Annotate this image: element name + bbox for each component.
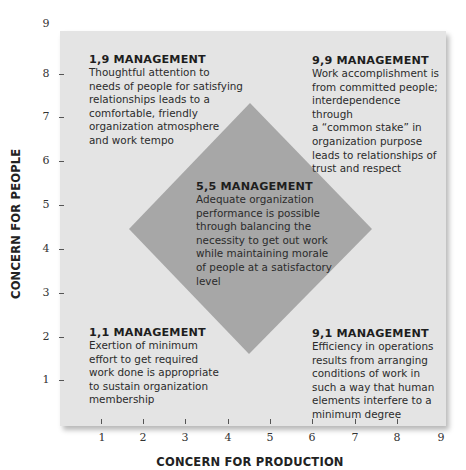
style-description-line: a “common stake” in [312,121,440,135]
style-description-line: results from arranging [312,354,442,368]
style-description-line: organization purpose [312,135,440,149]
style-1-9-country-club: 1,9 MANAGEMENT Thoughtful attention to n… [89,53,264,148]
style-description-line: minimum degree [312,408,442,422]
style-heading: 1,9 MANAGEMENT [89,53,264,66]
x-tick-mark [101,419,102,424]
x-tick-mark [143,419,144,424]
y-tick-mark [59,337,64,338]
y-axis-title: CONCERN FOR PEOPLE [9,159,23,299]
y-tick-mark [59,205,64,206]
style-description-line: effort to get required [89,353,219,367]
x-tick-label-5: 5 [263,432,277,444]
style-description-line: organization atmosphere [89,120,264,134]
x-tick-label-6: 6 [305,432,319,444]
style-description-line: Adequate organization [196,193,336,207]
x-tick-label-3: 3 [178,432,192,444]
x-tick-label-9: 9 [434,432,448,444]
style-description-line: comfortable, friendly [89,107,264,121]
style-description-line: of people at a satisfactory [196,261,336,275]
style-heading: 9,1 MANAGEMENT [312,327,442,340]
style-9-1-authority-compliance: 9,1 MANAGEMENT Efficiency in operations … [312,327,442,422]
style-description-line: through balancing the [196,220,336,234]
x-tick-label-8: 8 [390,432,404,444]
y-tick-label-5: 5 [40,199,52,211]
style-description-line: interdependence through [312,94,440,121]
style-description-line: Exertion of minimum [89,339,219,353]
y-tick-mark [59,117,64,118]
x-tick-label-2: 2 [136,432,150,444]
x-tick-mark [270,419,271,424]
style-description-line: Efficiency in operations [312,340,442,354]
y-tick-mark [59,161,64,162]
y-tick-label-3: 3 [40,287,52,299]
y-tick-label-4: 4 [40,243,52,255]
x-tick-label-1: 1 [95,432,109,444]
style-5-5-middle-road: 5,5 MANAGEMENT Adequate organization per… [196,180,336,288]
style-description-line: leads to relationships of [312,149,440,163]
y-tick-label-7: 7 [40,111,52,123]
x-tick-mark [228,419,229,424]
style-heading: 5,5 MANAGEMENT [196,180,336,193]
style-description-line: performance is possible [196,207,336,221]
style-description-line: membership [89,393,219,407]
x-tick-mark [185,419,186,424]
x-tick-label-4: 4 [221,432,235,444]
y-tick-label-9: 9 [40,18,52,30]
style-1-1-impoverished: 1,1 MANAGEMENT Exertion of minimum effor… [89,326,219,407]
style-description-line: needs of people for satisfying [89,80,264,94]
style-description-line: level [196,275,336,289]
y-tick-mark [59,249,64,250]
y-tick-mark [59,74,64,75]
style-description-line: elements interfere to a [312,394,442,408]
y-tick-label-8: 8 [40,68,52,80]
style-description-line: from committed people; [312,81,440,95]
style-description-line: relationships leads to a [89,93,264,107]
style-description-line: necessity to get out work [196,234,336,248]
style-description-line: while maintaining morale [196,247,336,261]
style-description-line: work done is appropriate [89,366,219,380]
y-tick-label-6: 6 [40,155,52,167]
style-description-line: Thoughtful attention to [89,66,264,80]
style-heading: 9,9 MANAGEMENT [312,54,440,67]
style-description-line: conditions of work in [312,367,442,381]
y-tick-mark [59,380,64,381]
style-description-line: and work tempo [89,134,264,148]
style-heading: 1,1 MANAGEMENT [89,326,219,339]
style-description-line: Work accomplishment is [312,67,440,81]
x-axis-title: CONCERN FOR PRODUCTION [0,455,466,469]
style-description-line: such a way that human [312,381,442,395]
x-tick-label-7: 7 [348,432,362,444]
y-tick-label-1: 1 [40,374,52,386]
style-9-9-team: 9,9 MANAGEMENT Work accomplishment is fr… [312,54,440,176]
style-description-line: trust and respect [312,162,440,176]
style-description-line: to sustain organization [89,380,219,394]
y-tick-label-2: 2 [40,331,52,343]
y-tick-mark [59,293,64,294]
